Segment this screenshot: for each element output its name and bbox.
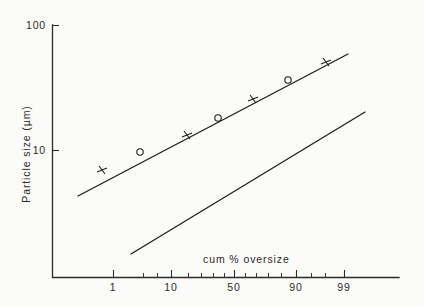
data-point-marker-circle	[137, 149, 143, 155]
x-tick-label-99: 99	[337, 281, 350, 293]
data-point-marker-cross	[321, 58, 331, 66]
data-point-markers	[97, 58, 331, 174]
data-point-marker-cross	[97, 166, 107, 174]
data-point-marker-cross	[182, 131, 192, 139]
x-tick-label-90: 90	[289, 281, 302, 293]
data-point-marker-circle	[215, 115, 221, 121]
y-axis-label: Particle size (µm)	[20, 84, 32, 224]
x-tick-label-50: 50	[227, 281, 240, 293]
particle-size-chart-figure: 100 10 1 10 50 90 99 Particle size (µm) …	[0, 0, 424, 307]
x-axis-major-ticks	[114, 270, 345, 278]
series-line-reference	[131, 112, 365, 254]
axis-spines	[53, 25, 400, 278]
x-axis-label: cum % oversize	[203, 253, 290, 265]
data-point-marker-circle	[285, 77, 291, 83]
x-tick-label-10: 10	[164, 281, 177, 293]
series-line-measured-distribution	[78, 54, 348, 196]
x-tick-label-1: 1	[110, 281, 117, 293]
y-axis-ticks	[53, 26, 60, 151]
y-tick-label-100: 100	[8, 19, 46, 31]
